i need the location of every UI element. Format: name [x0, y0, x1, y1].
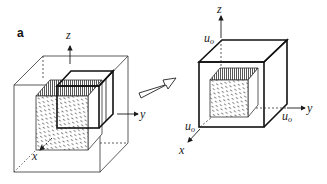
y-axis-label: y: [139, 107, 146, 121]
x-axis-label: x: [178, 143, 185, 157]
right-diagram: z y x uo uo uo: [178, 2, 313, 157]
panel-label: a: [17, 26, 24, 40]
hidden-edge: [200, 117, 212, 127]
displacement-label-top: uo: [204, 31, 214, 46]
x-axis-label: x: [31, 149, 38, 163]
y-axis-label: y: [306, 101, 313, 115]
displacement-label-left: uo: [185, 119, 195, 134]
displacement-label-right: uo: [282, 109, 292, 124]
left-diagram: z y x: [14, 28, 146, 172]
hollow-arrow-icon: [139, 78, 176, 98]
z-axis-label: z: [216, 2, 222, 16]
textured-cube: [210, 68, 258, 117]
figure-canvas: a z y x: [0, 0, 327, 184]
textured-cube: [36, 80, 102, 150]
z-axis-label: z: [65, 28, 71, 42]
